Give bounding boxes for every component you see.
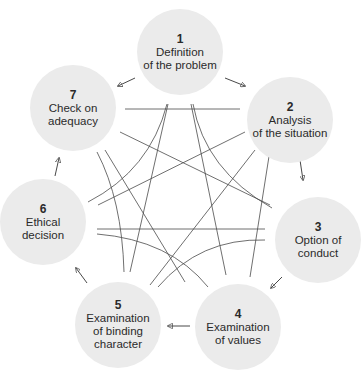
step-number: 3 [315,221,322,234]
step-number: 2 [287,101,294,114]
step-2-circle: 2 Analysis of the situation [247,77,333,163]
step-label: decision [22,229,64,242]
step-label: Examination [86,312,149,325]
interconnection-lines [88,104,272,287]
step-label: of binding [93,325,143,338]
step-label: of the problem [143,59,217,72]
step-6-circle: 6 Ethical decision [0,179,86,265]
step-label: adequacy [48,115,98,128]
step-label: Analysis [269,114,312,127]
step-label: Check on [49,102,98,115]
step-label: of the situation [253,127,328,140]
step-1-circle: 1 Definition of the problem [137,9,223,95]
step-number: 1 [177,33,184,46]
step-number: 6 [40,203,47,216]
step-label: Option of [295,234,342,247]
step-label: Definition [156,46,204,59]
ethical-decision-cycle-diagram: 1 Definition of the problem 2 Analysis o… [0,0,361,371]
step-number: 5 [115,299,122,312]
step-5-circle: 5 Examination of binding character [75,282,161,368]
step-label: conduct [298,247,338,260]
step-number: 4 [235,308,242,321]
step-3-circle: 3 Option of conduct [275,197,361,283]
step-4-circle: 4 Examination of values [195,284,281,370]
step-label: Examination [206,321,269,334]
step-label: character [94,338,142,351]
step-label: of values [215,334,261,347]
step-label: Ethical [26,216,61,229]
step-number: 7 [70,89,77,102]
step-7-circle: 7 Check on adequacy [30,65,116,151]
